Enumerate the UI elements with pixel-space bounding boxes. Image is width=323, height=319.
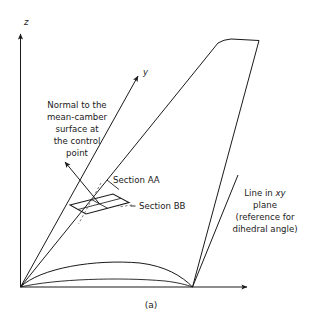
wing-tip-leading-corner	[218, 39, 231, 43]
dihedral-annotation-line-3: (reference for	[236, 212, 295, 222]
wing-leading-edge	[21, 43, 219, 287]
section-aa-dashed-line	[79, 183, 102, 224]
wing-geometry-diagram: z y Normal to the mean-camber surface at…	[0, 0, 323, 319]
dihedral-annotation: Line in xy plane (reference for dihedral…	[232, 188, 297, 234]
section-aa-label: Section AA	[113, 175, 160, 185]
dihedral-annotation-line-2: plane	[253, 200, 277, 210]
y-axis-label: y	[142, 67, 149, 77]
dihedral-line1-italic: xy	[275, 188, 287, 198]
airfoil-mean-camber-line	[21, 279, 193, 287]
wing-trailing-edge	[193, 41, 260, 288]
figure-container: z y Normal to the mean-camber surface at…	[0, 0, 323, 319]
dihedral-line1-prefix: Line in	[244, 188, 275, 198]
section-bb-label: Section BB	[139, 201, 186, 211]
panel-grid-group	[70, 183, 132, 224]
normal-annotation-line-2: mean-camber	[47, 112, 108, 122]
normal-annotation-line-5: point	[66, 148, 89, 158]
root-airfoil-section	[21, 262, 193, 287]
wing-tip-chord	[231, 39, 259, 41]
figure-caption: (a)	[145, 300, 158, 310]
normal-annotation-line-1: Normal to the	[47, 100, 106, 110]
dihedral-annotation-line-1: Line in xy	[244, 188, 286, 198]
dihedral-reference-line-group	[193, 175, 239, 287]
axis-group	[21, 34, 248, 287]
z-axis-label: z	[23, 17, 29, 27]
normal-annotation-line-3: surface at	[55, 124, 99, 134]
wing-planform	[21, 39, 260, 287]
dihedral-reference-line	[193, 175, 239, 287]
panel-grid-line-chord	[78, 198, 121, 209]
normal-annotation-line-4: the control	[54, 136, 101, 146]
airfoil-upper-surface	[21, 262, 193, 287]
normal-annotation: Normal to the mean-camber surface at the…	[47, 100, 108, 158]
dihedral-annotation-line-4: dihedral angle)	[232, 224, 297, 234]
